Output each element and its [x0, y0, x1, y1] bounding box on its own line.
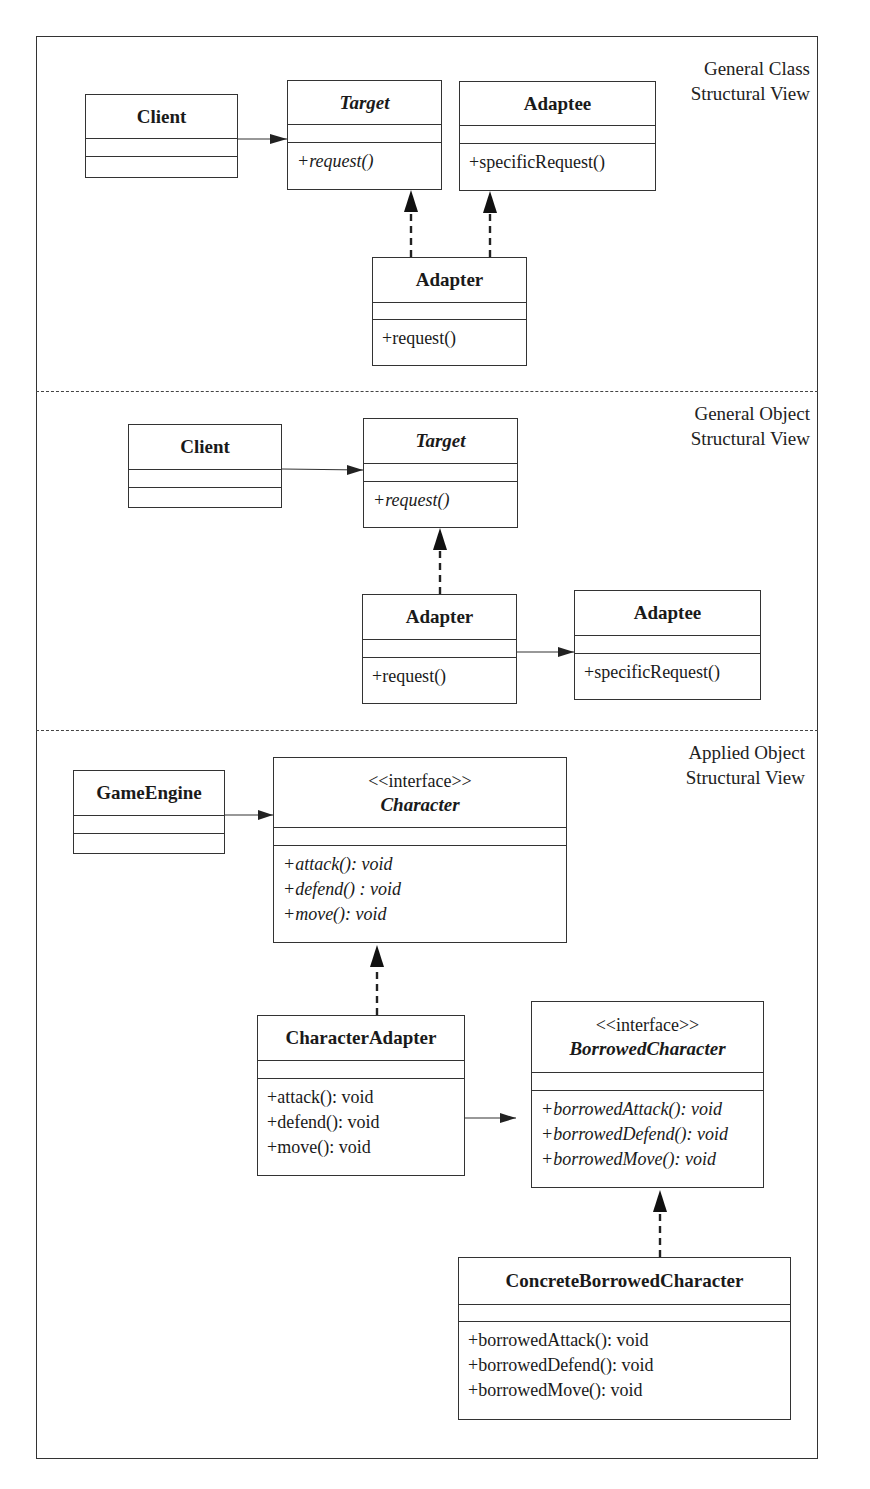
section-label-line: General Object	[691, 401, 810, 426]
section-label-line: Structural View	[686, 765, 805, 790]
class-name: BorrowedCharacter	[569, 1037, 725, 1061]
operation: +borrowedAttack(): void	[468, 1328, 790, 1353]
attributes-compartment	[258, 1061, 464, 1079]
class-name-compartment: Adapter	[373, 258, 526, 303]
class-name-compartment: Adaptee	[460, 82, 655, 126]
class-name: Character	[380, 793, 459, 817]
attributes-compartment	[459, 1305, 790, 1322]
operations-compartment: +request()	[288, 143, 441, 174]
attributes-compartment	[86, 139, 237, 157]
section-label-line: Structural View	[691, 426, 810, 451]
operations-compartment: +borrowedAttack(): void +borrowedDefend(…	[532, 1091, 763, 1172]
class-name-compartment: <<interface>> BorrowedCharacter	[532, 1002, 763, 1073]
class-name: Target	[340, 91, 390, 115]
operation: +defend() : void	[283, 877, 566, 902]
operation: +attack(): void	[267, 1085, 464, 1110]
class-target[interactable]: Target +request()	[287, 80, 442, 190]
class-name-compartment: GameEngine	[74, 771, 224, 816]
class-name: Target	[416, 429, 466, 453]
class-adaptee[interactable]: Adaptee +specificRequest()	[459, 81, 656, 191]
attributes-compartment	[532, 1073, 763, 1091]
class-adapter[interactable]: Adapter +request()	[372, 257, 527, 366]
class-name-compartment: CharacterAdapter	[258, 1016, 464, 1061]
class-name-compartment: ConcreteBorrowedCharacter	[459, 1258, 790, 1305]
class-name: Adapter	[416, 268, 484, 292]
operations-compartment: +specificRequest()	[575, 654, 760, 685]
operation: +request()	[382, 326, 526, 351]
class-name-compartment: Adaptee	[575, 591, 760, 636]
class-name: ConcreteBorrowedCharacter	[506, 1269, 744, 1293]
class-game-engine[interactable]: GameEngine	[73, 770, 225, 854]
operation: +specificRequest()	[584, 660, 760, 685]
class-name-compartment: <<interface>> Character	[274, 758, 566, 828]
class-name: Client	[137, 105, 187, 129]
object-adaptee[interactable]: Adaptee +specificRequest()	[574, 590, 761, 700]
attributes-compartment	[363, 640, 516, 658]
attributes-compartment	[575, 636, 760, 654]
class-name-compartment: Client	[86, 95, 237, 139]
section-label-applied-view: Applied Object Structural View	[686, 740, 805, 790]
stereotype-label: <<interface>>	[596, 1013, 700, 1037]
operation: +borrowedMove(): void	[541, 1147, 763, 1172]
class-name: Client	[180, 435, 230, 459]
operations-compartment: +attack(): void +defend() : void +move()…	[274, 846, 566, 927]
class-name-compartment: Adapter	[363, 595, 516, 640]
attributes-compartment	[364, 464, 517, 482]
operation: +borrowedAttack(): void	[541, 1097, 763, 1122]
section-label-line: Structural View	[691, 81, 810, 106]
operations-compartment: +request()	[373, 320, 526, 351]
class-name: Adapter	[406, 605, 474, 629]
attributes-compartment	[74, 816, 224, 834]
operations-compartment: +attack(): void +defend(): void +move():…	[258, 1079, 464, 1160]
stereotype-label: <<interface>>	[368, 769, 472, 793]
section-divider-1	[36, 391, 818, 392]
class-name: CharacterAdapter	[286, 1026, 437, 1050]
operation: +move(): void	[267, 1135, 464, 1160]
class-name: Adaptee	[634, 601, 702, 625]
section-divider-2	[36, 730, 818, 731]
interface-character[interactable]: <<interface>> Character +attack(): void …	[273, 757, 567, 943]
operation: +request()	[373, 488, 517, 513]
operation: +defend(): void	[267, 1110, 464, 1135]
operation: +request()	[297, 149, 441, 174]
object-client[interactable]: Client	[128, 424, 282, 508]
operation: +specificRequest()	[469, 150, 655, 175]
class-concrete-borrowed-character[interactable]: ConcreteBorrowedCharacter +borrowedAttac…	[458, 1257, 791, 1420]
operation: +move(): void	[283, 902, 566, 927]
class-name-compartment: Client	[129, 425, 281, 470]
attributes-compartment	[373, 303, 526, 320]
operation: +borrowedDefend(): void	[468, 1353, 790, 1378]
section-label-object-view: General Object Structural View	[691, 401, 810, 451]
class-name: Adaptee	[524, 92, 592, 116]
class-name: GameEngine	[96, 781, 202, 805]
operation: +attack(): void	[283, 852, 566, 877]
operation: +borrowedMove(): void	[468, 1378, 790, 1403]
object-target[interactable]: Target +request()	[363, 418, 518, 528]
operations-compartment: +request()	[363, 658, 516, 689]
section-label-line: Applied Object	[686, 740, 805, 765]
class-character-adapter[interactable]: CharacterAdapter +attack(): void +defend…	[257, 1015, 465, 1176]
class-name-compartment: Target	[288, 81, 441, 125]
operations-compartment: +specificRequest()	[460, 144, 655, 175]
attributes-compartment	[129, 470, 281, 488]
section-label-class-view: General Class Structural View	[691, 56, 810, 106]
attributes-compartment	[274, 828, 566, 846]
attributes-compartment	[288, 125, 441, 143]
interface-borrowed-character[interactable]: <<interface>> BorrowedCharacter +borrowe…	[531, 1001, 764, 1188]
section-label-line: General Class	[691, 56, 810, 81]
operation: +borrowedDefend(): void	[541, 1122, 763, 1147]
operations-compartment: +request()	[364, 482, 517, 513]
operation: +request()	[372, 664, 516, 689]
attributes-compartment	[460, 126, 655, 144]
class-name-compartment: Target	[364, 419, 517, 464]
object-adapter[interactable]: Adapter +request()	[362, 594, 517, 704]
class-client[interactable]: Client	[85, 94, 238, 178]
operations-compartment: +borrowedAttack(): void +borrowedDefend(…	[459, 1322, 790, 1403]
